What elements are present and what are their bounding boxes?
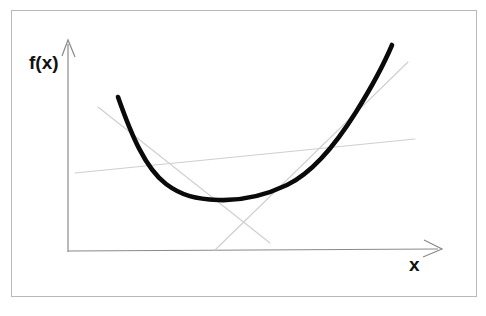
convex-function-curve [118, 45, 392, 200]
axes-group [62, 40, 442, 257]
tangent-lines-group [75, 62, 415, 250]
x-axis-label: x [409, 255, 420, 274]
y-axis-label: f(x) [29, 53, 59, 72]
tangent-line-descending [98, 107, 270, 243]
figure-root: f(x) x [0, 0, 486, 316]
x-axis-line [68, 249, 438, 251]
convex-curve-group [118, 45, 392, 200]
tangent-line-gentle [75, 139, 415, 173]
